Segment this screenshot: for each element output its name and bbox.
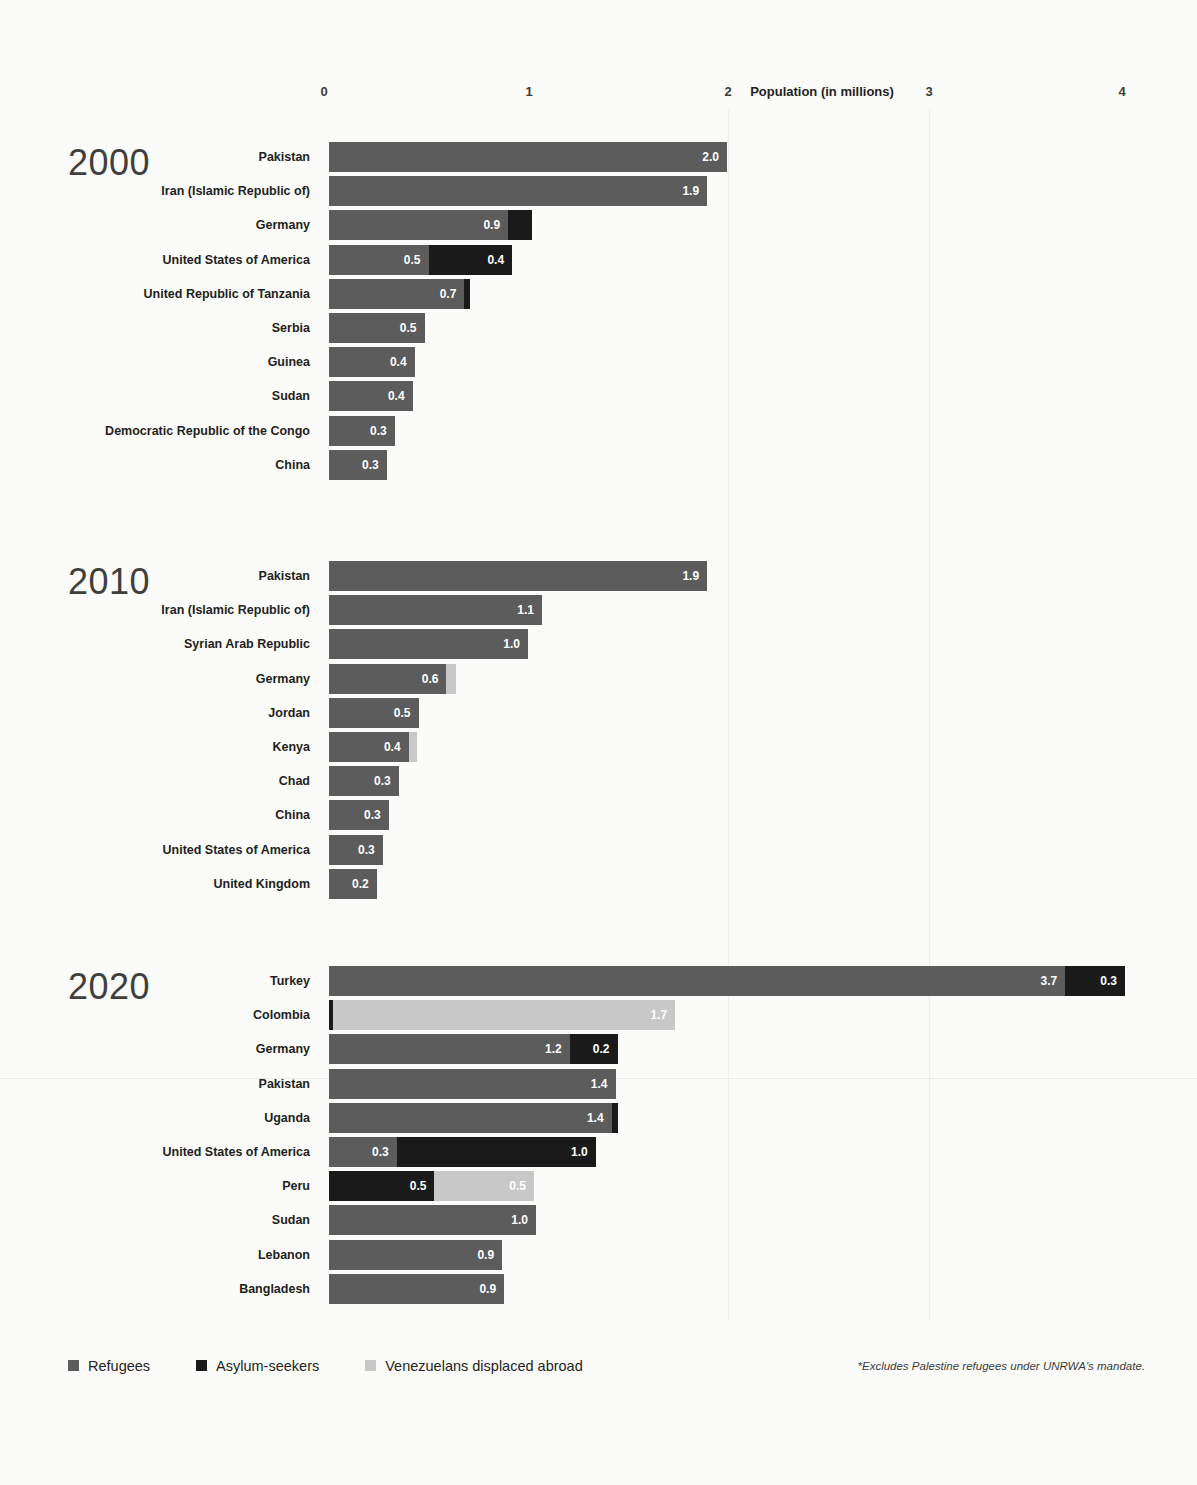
stacked-bar[interactable]: 0.3 <box>329 835 383 865</box>
bar-segment-venezuelans-displaced-abroad[interactable]: 0.5 <box>434 1171 534 1201</box>
legend-item-asylum[interactable]: Asylum-seekers <box>196 1357 319 1374</box>
bar-segment-refugees[interactable]: 0.3 <box>329 1137 397 1167</box>
bar-row[interactable]: Turkey3.70.3 <box>0 966 1197 996</box>
stacked-bar[interactable]: 1.4 <box>329 1103 618 1133</box>
bar-row[interactable]: United Republic of Tanzania0.7 <box>0 279 1197 309</box>
stacked-bar[interactable]: 2.0 <box>329 142 727 172</box>
stacked-bar[interactable]: 0.7 <box>329 279 470 309</box>
bar-segment-refugees[interactable]: 1.2 <box>329 1034 570 1064</box>
bar-segment-refugees[interactable]: 1.4 <box>329 1103 612 1133</box>
bar-segment-refugees[interactable]: 1.0 <box>329 1205 536 1235</box>
stacked-bar[interactable]: 0.3 <box>329 766 399 796</box>
bar-segment-refugees[interactable]: 0.3 <box>329 800 389 830</box>
stacked-bar[interactable]: 0.5 <box>329 698 419 728</box>
bar-segment-refugees[interactable]: 1.1 <box>329 595 542 625</box>
bar-segment-asylum-seekers[interactable]: 0.4 <box>429 245 513 275</box>
bar-row[interactable]: Colombia1.7 <box>0 1000 1197 1030</box>
bar-segment-refugees[interactable]: 0.4 <box>329 732 409 762</box>
bar-row[interactable]: Serbia0.5 <box>0 313 1197 343</box>
bar-segment-refugees[interactable]: 0.3 <box>329 450 387 480</box>
bar-row[interactable]: Chad0.3 <box>0 766 1197 796</box>
bar-row[interactable]: Germany0.9 <box>0 210 1197 240</box>
bar-row[interactable]: Pakistan1.9 <box>0 561 1197 591</box>
bar-segment-refugees[interactable]: 0.2 <box>329 869 377 899</box>
bar-row[interactable]: Sudan0.4 <box>0 381 1197 411</box>
stacked-bar[interactable]: 0.4 <box>329 347 415 377</box>
bar-segment-asylum-seekers[interactable] <box>508 210 532 240</box>
bar-row[interactable]: Bangladesh0.9 <box>0 1274 1197 1304</box>
stacked-bar[interactable]: 0.3 <box>329 450 387 480</box>
bar-row[interactable]: Pakistan1.4 <box>0 1069 1197 1099</box>
bar-row[interactable]: United States of America0.3 <box>0 835 1197 865</box>
bar-row[interactable]: Peru0.50.5 <box>0 1171 1197 1201</box>
stacked-bar[interactable]: 1.7 <box>329 1000 675 1030</box>
bar-segment-asylum-seekers[interactable] <box>612 1103 618 1133</box>
stacked-bar[interactable]: 0.3 <box>329 416 395 446</box>
stacked-bar[interactable]: 0.50.4 <box>329 245 512 275</box>
bar-row[interactable]: China0.3 <box>0 450 1197 480</box>
bar-row[interactable]: Democratic Republic of the Congo0.3 <box>0 416 1197 446</box>
stacked-bar[interactable]: 0.9 <box>329 210 532 240</box>
bar-segment-refugees[interactable]: 0.3 <box>329 835 383 865</box>
bar-row[interactable]: United Kingdom0.2 <box>0 869 1197 899</box>
bar-row[interactable]: Germany1.20.2 <box>0 1034 1197 1064</box>
stacked-bar[interactable]: 0.5 <box>329 313 425 343</box>
bar-segment-refugees[interactable]: 3.7 <box>329 966 1065 996</box>
legend-item-refugees[interactable]: Refugees <box>68 1357 150 1374</box>
bar-segment-refugees[interactable]: 0.4 <box>329 381 413 411</box>
stacked-bar[interactable]: 0.3 <box>329 800 389 830</box>
bar-row[interactable]: Kenya0.4 <box>0 732 1197 762</box>
bar-row[interactable]: Iran (Islamic Republic of)1.9 <box>0 176 1197 206</box>
bar-row[interactable]: Jordan0.5 <box>0 698 1197 728</box>
stacked-bar[interactable]: 0.31.0 <box>329 1137 596 1167</box>
bar-segment-asylum-seekers[interactable]: 0.2 <box>570 1034 618 1064</box>
bar-row[interactable]: Guinea0.4 <box>0 347 1197 377</box>
bar-row[interactable]: United States of America0.50.4 <box>0 245 1197 275</box>
bar-row[interactable]: China0.3 <box>0 800 1197 830</box>
bar-segment-refugees[interactable]: 0.5 <box>329 698 419 728</box>
bar-segment-refugees[interactable]: 1.4 <box>329 1069 616 1099</box>
bar-segment-refugees[interactable]: 2.0 <box>329 142 727 172</box>
stacked-bar[interactable]: 1.20.2 <box>329 1034 618 1064</box>
bar-row[interactable]: Germany0.6 <box>0 664 1197 694</box>
bar-row[interactable]: Sudan1.0 <box>0 1205 1197 1235</box>
bar-segment-asylum-seekers[interactable]: 0.3 <box>1065 966 1125 996</box>
stacked-bar[interactable]: 0.9 <box>329 1240 502 1270</box>
bar-row[interactable]: Syrian Arab Republic1.0 <box>0 629 1197 659</box>
stacked-bar[interactable]: 0.4 <box>329 732 417 762</box>
bar-row[interactable]: Pakistan2.0 <box>0 142 1197 172</box>
stacked-bar[interactable]: 0.50.5 <box>329 1171 534 1201</box>
bar-segment-refugees[interactable]: 0.9 <box>329 1240 502 1270</box>
bar-row[interactable]: Uganda1.4 <box>0 1103 1197 1133</box>
bar-segment-refugees[interactable]: 1.0 <box>329 629 528 659</box>
bar-segment-refugees[interactable]: 0.5 <box>329 245 429 275</box>
stacked-bar[interactable]: 0.9 <box>329 1274 504 1304</box>
stacked-bar[interactable]: 1.9 <box>329 561 707 591</box>
stacked-bar[interactable]: 1.0 <box>329 1205 536 1235</box>
bar-segment-refugees[interactable]: 0.7 <box>329 279 464 309</box>
bar-segment-refugees[interactable]: 1.9 <box>329 561 707 591</box>
bar-segment-venezuelans-displaced-abroad[interactable]: 1.7 <box>333 1000 675 1030</box>
bar-segment-refugees[interactable]: 0.3 <box>329 416 395 446</box>
legend-item-venezuelans[interactable]: Venezuelans displaced abroad <box>365 1357 583 1374</box>
bar-segment-refugees[interactable]: 0.4 <box>329 347 415 377</box>
stacked-bar[interactable]: 1.9 <box>329 176 707 206</box>
bar-segment-refugees[interactable]: 0.9 <box>329 1274 504 1304</box>
stacked-bar[interactable]: 1.0 <box>329 629 528 659</box>
bar-segment-asylum-seekers[interactable] <box>464 279 470 309</box>
bar-segment-asylum-seekers[interactable]: 0.5 <box>329 1171 434 1201</box>
bar-segment-venezuelans-displaced-abroad[interactable] <box>409 732 417 762</box>
bar-segment-refugees[interactable]: 0.9 <box>329 210 508 240</box>
bar-segment-refugees[interactable]: 0.6 <box>329 664 446 694</box>
bar-row[interactable]: Iran (Islamic Republic of)1.1 <box>0 595 1197 625</box>
stacked-bar[interactable]: 0.6 <box>329 664 456 694</box>
bar-segment-refugees[interactable]: 0.3 <box>329 766 399 796</box>
stacked-bar[interactable]: 1.1 <box>329 595 542 625</box>
stacked-bar[interactable]: 0.2 <box>329 869 377 899</box>
bar-segment-asylum-seekers[interactable]: 1.0 <box>397 1137 596 1167</box>
stacked-bar[interactable]: 3.70.3 <box>329 966 1125 996</box>
bar-row[interactable]: Lebanon0.9 <box>0 1240 1197 1270</box>
stacked-bar[interactable]: 1.4 <box>329 1069 616 1099</box>
bar-segment-refugees[interactable]: 0.5 <box>329 313 425 343</box>
stacked-bar[interactable]: 0.4 <box>329 381 413 411</box>
